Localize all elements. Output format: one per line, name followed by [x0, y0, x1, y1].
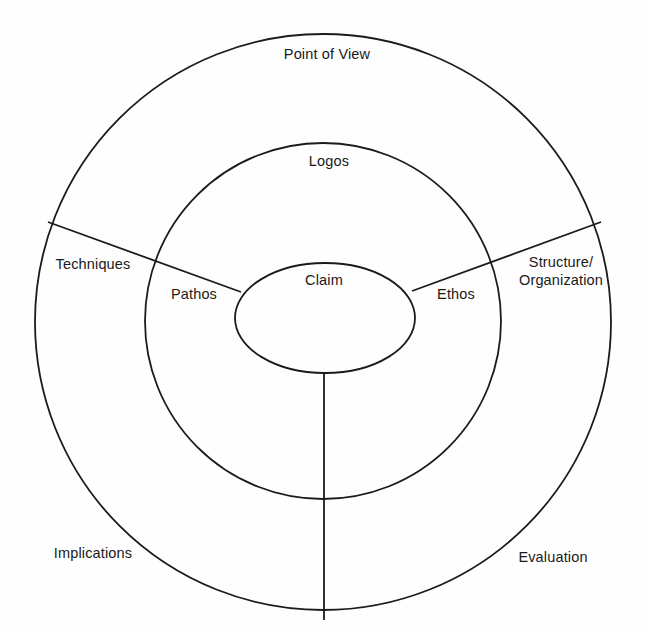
label-structure-line2: Organization [519, 272, 603, 290]
label-structure-line1: Structure/ [519, 254, 603, 272]
diagram-canvas [0, 0, 645, 634]
label-techniques: Techniques [56, 256, 131, 274]
label-claim: Claim [305, 272, 343, 290]
middle-circle [145, 143, 501, 499]
label-ethos: Ethos [437, 286, 475, 304]
outer-circle [35, 34, 611, 610]
rhetorical-analysis-diagram: Point of View Logos Claim Techniques Pat… [0, 0, 645, 634]
label-pathos: Pathos [171, 286, 217, 304]
label-point-of-view: Point of View [284, 46, 370, 64]
label-structure-organization: Structure/ Organization [519, 254, 603, 289]
label-logos: Logos [309, 153, 349, 171]
label-evaluation: Evaluation [518, 549, 587, 567]
label-implications: Implications [54, 545, 132, 563]
